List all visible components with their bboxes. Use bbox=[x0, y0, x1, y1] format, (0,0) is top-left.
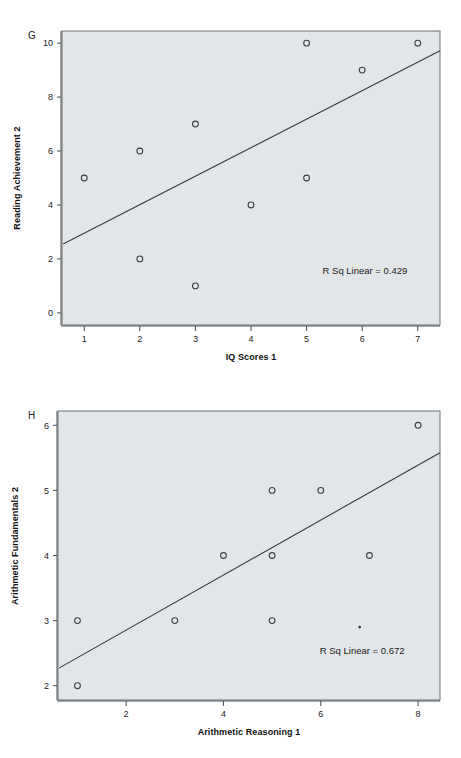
y-axis-title-g: Reading Achievement 2 bbox=[12, 126, 22, 229]
y-tick-label-g-4: 4 bbox=[48, 200, 53, 210]
x-axis-title-h: Arithmetic Reasoning 1 bbox=[198, 727, 301, 737]
y-axis-title-h: Arithmetic Fundamentals 2 bbox=[10, 487, 20, 605]
figure-page: G 02468101234567R Sq Linear = 0.429IQ Sc… bbox=[0, 0, 461, 758]
scatter-figure-g: G 02468101234567R Sq Linear = 0.429IQ Sc… bbox=[0, 0, 461, 380]
x-tick-label-g-4: 4 bbox=[248, 334, 253, 344]
x-tick-label-g-7: 7 bbox=[415, 334, 420, 344]
y-tick-label-g-0: 0 bbox=[48, 308, 53, 318]
y-tick-label-h-2: 2 bbox=[44, 681, 49, 691]
r-squared-annotation-g: R Sq Linear = 0.429 bbox=[323, 265, 408, 276]
x-axis-title-g: IQ Scores 1 bbox=[226, 352, 277, 362]
x-tick-label-g-3: 3 bbox=[193, 334, 198, 344]
y-tick-label-g-6: 6 bbox=[48, 146, 53, 156]
scatter-figure-h: H 234562468R Sq Linear = 0.672Arithmetic… bbox=[0, 380, 461, 758]
x-tick-label-h-2: 2 bbox=[124, 709, 129, 719]
x-tick-label-g-1: 1 bbox=[82, 334, 87, 344]
x-tick-label-h-4: 4 bbox=[221, 709, 226, 719]
x-tick-label-h-8: 8 bbox=[416, 709, 421, 719]
data-point-h-1-0 bbox=[358, 626, 361, 629]
y-tick-label-h-4: 4 bbox=[44, 551, 49, 561]
y-tick-label-g-8: 8 bbox=[48, 92, 53, 102]
y-tick-label-h-5: 5 bbox=[44, 486, 49, 496]
r-squared-annotation-h: R Sq Linear = 0.672 bbox=[320, 645, 405, 656]
y-tick-label-h-6: 6 bbox=[44, 421, 49, 431]
y-tick-label-g-2: 2 bbox=[48, 254, 53, 264]
y-tick-label-h-3: 3 bbox=[44, 616, 49, 626]
x-tick-label-g-2: 2 bbox=[137, 334, 142, 344]
y-tick-label-g-10: 10 bbox=[43, 38, 53, 48]
scatter-plot-g: 02468101234567R Sq Linear = 0.429IQ Scor… bbox=[0, 0, 461, 380]
x-tick-label-g-6: 6 bbox=[360, 334, 365, 344]
x-tick-label-g-5: 5 bbox=[304, 334, 309, 344]
scatter-plot-h: 234562468R Sq Linear = 0.672Arithmetic R… bbox=[0, 380, 461, 758]
x-tick-label-h-6: 6 bbox=[318, 709, 323, 719]
plot-frame-g bbox=[62, 31, 440, 325]
plot-frame-h bbox=[58, 411, 440, 700]
